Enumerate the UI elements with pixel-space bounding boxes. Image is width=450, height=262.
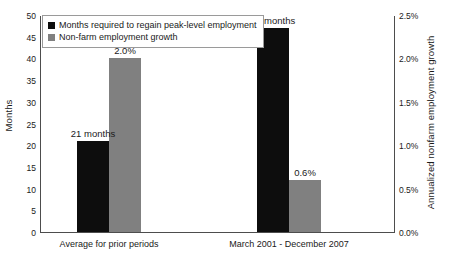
- legend-swatch-icon: [48, 22, 55, 29]
- legend-label: Months required to regain peak-level emp…: [59, 21, 257, 30]
- legend-item: Months required to regain peak-level emp…: [48, 19, 257, 31]
- bar-value-label: 21 months: [55, 129, 131, 139]
- tick-label: 40: [14, 55, 36, 64]
- bar: [289, 180, 321, 232]
- tick-label: 0.5%: [399, 186, 418, 195]
- legend-label: Non-farm employment growth: [59, 33, 178, 42]
- tick-label: 45: [14, 34, 36, 43]
- tick-label: 0: [14, 229, 36, 238]
- y-axis-right-title: Annualized nonfarm employment growth: [425, 0, 436, 248]
- tick-label: 25: [14, 121, 36, 130]
- legend-swatch-icon: [48, 34, 55, 41]
- legend-item: Non-farm employment growth: [48, 31, 257, 43]
- x-axis-category-label: March 2001 - December 2007: [199, 240, 379, 249]
- tick-label: 1.0%: [399, 142, 418, 151]
- tick-label: 30: [14, 99, 36, 108]
- tick-label: 0.0%: [399, 229, 418, 238]
- chart-legend: Months required to regain peak-level emp…: [42, 15, 264, 48]
- tick-label: 10: [14, 186, 36, 195]
- y-axis-left-title: Months: [3, 86, 14, 146]
- tick-label: 1.5%: [399, 99, 418, 108]
- tick-label: 50: [14, 12, 36, 21]
- tick-label: 2.5%: [399, 12, 418, 21]
- tick-label: 35: [14, 77, 36, 86]
- x-axis-category-label: Average for prior periods: [19, 240, 199, 249]
- tick-label: 20: [14, 142, 36, 151]
- bar: [109, 58, 141, 232]
- bar-chart: Months Annualized nonfarm employment gro…: [0, 0, 450, 262]
- tick-label: 15: [14, 164, 36, 173]
- bar: [257, 28, 289, 232]
- bar: [77, 141, 109, 232]
- bar-value-label: 0.6%: [267, 168, 343, 178]
- tick-label: 5: [14, 207, 36, 216]
- tick-label: 2.0%: [399, 55, 418, 64]
